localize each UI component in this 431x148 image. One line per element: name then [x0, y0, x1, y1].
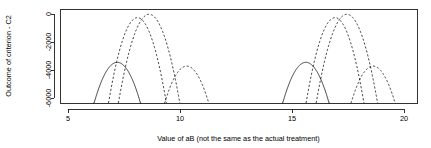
x-axis-tick-label: 15	[288, 114, 296, 123]
plot-background	[0, 0, 431, 148]
x-axis-tick-label: 20	[400, 114, 408, 123]
x-axis-tick-label: 10	[176, 114, 184, 123]
chart-container: 5101520 0-2000-4000-6000 Value of aB (no…	[0, 0, 431, 148]
x-axis-tick-label: 5	[66, 114, 70, 123]
y-axis-tick-label: -4000	[44, 61, 53, 80]
y-axis-label: Outcome of criterion - C2	[4, 15, 13, 97]
y-axis-tick-label: -2000	[44, 33, 53, 52]
y-axis-tick-label: 0	[44, 12, 53, 16]
y-axis-tick-label: -6000	[44, 89, 53, 108]
plot-svg: 5101520 0-2000-4000-6000 Value of aB (no…	[0, 0, 431, 148]
x-axis-label: Value of aB (not the same as the actual …	[157, 134, 320, 143]
